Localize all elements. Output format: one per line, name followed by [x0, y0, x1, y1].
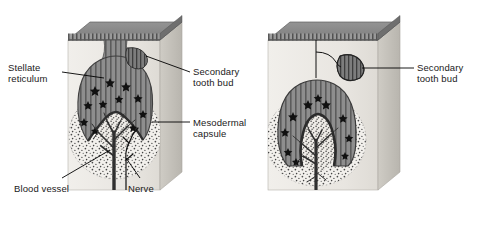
left-block-side-face — [160, 22, 182, 190]
label-secondary-tooth-bud-right: Secondary tooth bud — [417, 62, 463, 84]
diagram-svg — [0, 0, 480, 230]
right-block-side-face — [378, 22, 400, 190]
figure-canvas: Stellate reticulum Secondary tooth bud M… — [0, 0, 480, 230]
right-epithelium-lip — [268, 39, 378, 40]
label-blood-vessel: Blood vessel — [14, 183, 69, 194]
label-mesodermal-capsule: Mesodermal capsule — [193, 117, 246, 139]
label-nerve: Nerve — [128, 183, 154, 194]
label-secondary-tooth-bud-left: Secondary tooth bud — [193, 66, 239, 88]
label-stellate-reticulum: Stellate reticulum — [8, 62, 47, 84]
